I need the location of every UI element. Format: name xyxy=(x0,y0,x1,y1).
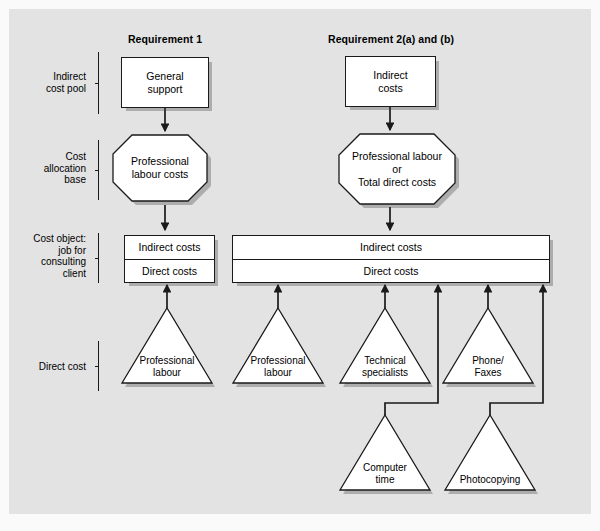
diagram-canvas: Requirement 1 Requirement 2(a) and (b) I… xyxy=(0,0,600,531)
direct-cost-label: Professionallabour xyxy=(231,355,325,379)
cost-pool-label: Indirectcosts xyxy=(346,69,435,95)
brace-cost-allocation-base xyxy=(98,140,99,200)
cost-object-direct-row: Direct costs xyxy=(233,259,549,283)
brace-cost-object xyxy=(98,233,99,283)
direct-cost-triangle-technical-specialists[interactable]: Technicalspecialists xyxy=(338,306,432,386)
cost-object-box-requirement-1[interactable]: Indirect costs Direct costs xyxy=(124,235,215,283)
row-label-cost-object: Cost object:job forconsultingclient xyxy=(14,233,86,279)
row-label-direct-cost: Direct cost xyxy=(20,361,86,373)
direct-cost-triangle-professional-labour-1[interactable]: Professionallabour xyxy=(120,306,214,386)
direct-cost-triangle-professional-labour-2[interactable]: Professionallabour xyxy=(231,306,325,386)
direct-cost-label: Professionallabour xyxy=(120,355,214,379)
cost-pool-box-indirect-costs[interactable]: Indirectcosts xyxy=(345,56,436,107)
cost-object-direct-row: Direct costs xyxy=(125,259,214,283)
direct-cost-triangle-computer-time[interactable]: Computertime xyxy=(338,413,432,493)
allocation-base-octagon-professional-labour-or-total-direct-costs[interactable]: Professional labourorTotal direct costs xyxy=(336,131,458,207)
column-header-requirement-2: Requirement 2(a) and (b) xyxy=(316,33,466,45)
direct-cost-label: Computertime xyxy=(338,462,432,486)
cost-object-indirect-row: Indirect costs xyxy=(125,236,214,259)
cost-object-box-requirement-2[interactable]: Indirect costs Direct costs xyxy=(232,235,550,283)
row-label-cost-allocation-base: Costallocationbase xyxy=(20,151,86,186)
allocation-base-octagon-professional-labour-costs[interactable]: Professionallabour costs xyxy=(110,132,210,204)
direct-cost-label: Phone/Faxes xyxy=(441,355,535,379)
cost-pool-label: Generalsupport xyxy=(122,70,208,96)
column-header-requirement-1: Requirement 1 xyxy=(104,33,226,45)
direct-cost-triangle-phone-faxes[interactable]: Phone/Faxes xyxy=(441,306,535,386)
direct-cost-label: Technicalspecialists xyxy=(338,355,432,379)
row-label-indirect-cost-pool: Indirectcost pool xyxy=(20,71,86,94)
allocation-base-label: Professional labourorTotal direct costs xyxy=(336,150,458,189)
direct-cost-triangle-photocopying[interactable]: Photocopying xyxy=(443,413,537,493)
cost-pool-box-general-support[interactable]: Generalsupport xyxy=(121,57,209,108)
allocation-base-label: Professionallabour costs xyxy=(110,155,210,181)
cost-object-indirect-row: Indirect costs xyxy=(233,236,549,259)
brace-indirect-cost-pool xyxy=(98,52,99,114)
brace-direct-cost xyxy=(98,341,99,391)
direct-cost-label: Photocopying xyxy=(443,474,537,486)
